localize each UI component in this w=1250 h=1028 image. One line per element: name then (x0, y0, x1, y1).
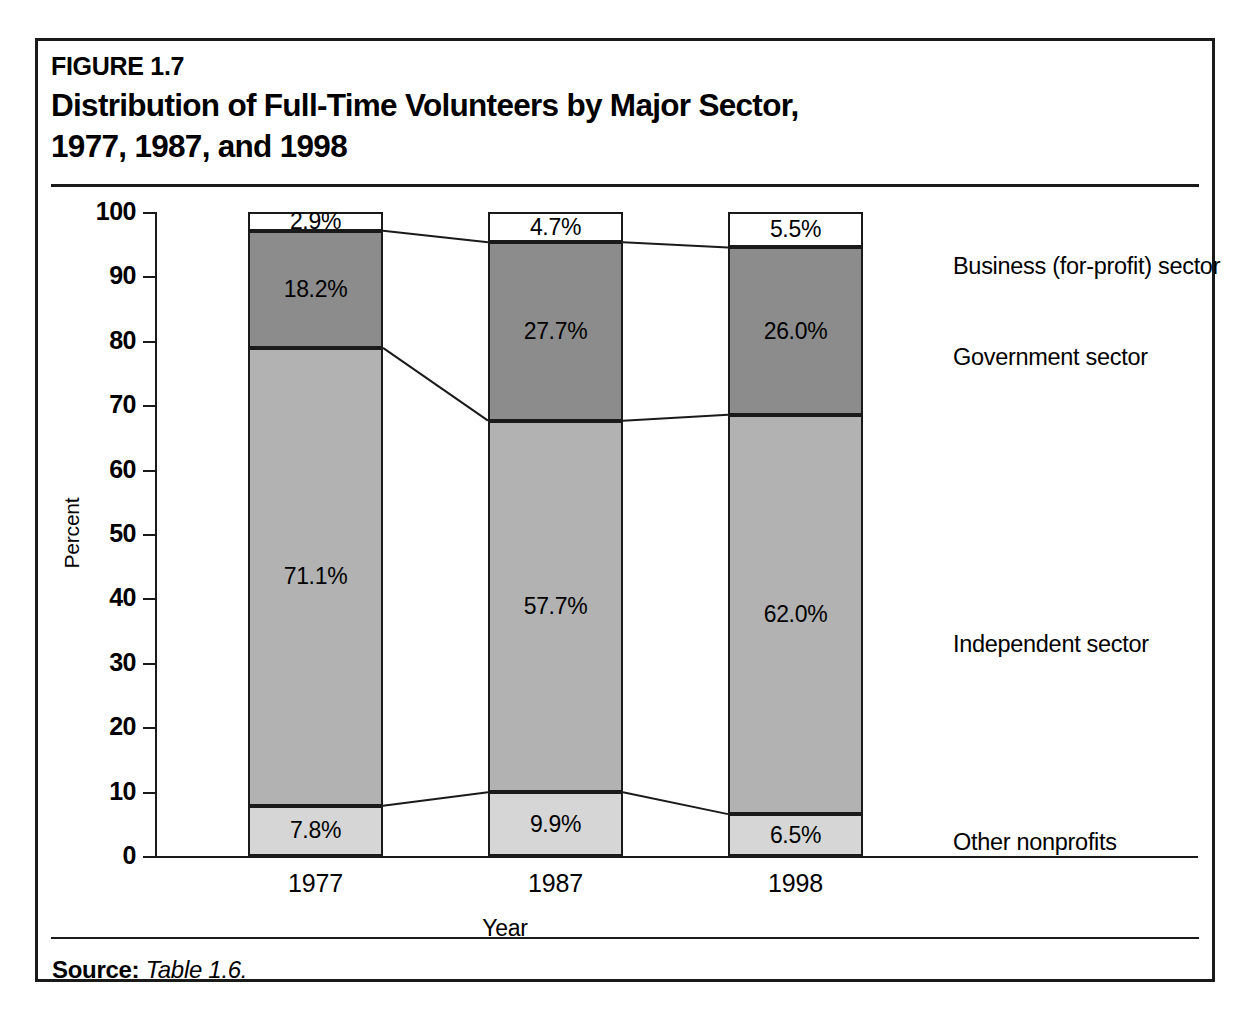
source-note: Source: Table 1.6. (52, 956, 247, 984)
legend-item-label: Other nonprofits (953, 831, 1117, 855)
stacked-bar[interactable]: 7.8%71.1%18.2%2.9% (248, 212, 383, 856)
y-tick-label: 40 (76, 585, 136, 610)
bar-segment[interactable]: 27.7% (488, 242, 623, 420)
y-tick-label-wrap: 60 (38, 457, 136, 483)
bar-segment-value-label: 62.0% (764, 603, 828, 626)
source-divider (51, 937, 1199, 939)
bar-segment[interactable]: 7.8% (248, 806, 383, 856)
bar-segment-value-label: 4.7% (530, 216, 581, 239)
bar-segment-value-label: 6.5% (770, 824, 821, 847)
bar-segment-value-label: 57.7% (524, 595, 588, 618)
y-tick-label: 50 (76, 521, 136, 546)
y-tick-label-wrap: 80 (38, 328, 136, 354)
bar-segment-value-label: 5.5% (770, 218, 821, 241)
bar-segment[interactable]: 71.1% (248, 348, 383, 806)
y-tick-label: 60 (76, 457, 136, 482)
y-tick-label-wrap: 10 (38, 779, 136, 805)
bar-segment[interactable]: 26.0% (728, 247, 863, 414)
y-tick-label-wrap: 100 (38, 199, 136, 225)
x-tick-label: 1987 (456, 869, 656, 898)
figure-frame: FIGURE 1.7 Distribution of Full-Time Vol… (35, 38, 1215, 982)
connector-line (383, 348, 488, 421)
y-tick-label: 100 (76, 199, 136, 224)
y-tick-label-wrap: 50 (38, 521, 136, 547)
x-axis-line (155, 856, 1198, 858)
y-tick-mark (143, 792, 156, 794)
stacked-bar[interactable]: 9.9%57.7%27.7%4.7% (488, 212, 623, 856)
y-tick-label: 10 (76, 779, 136, 804)
bar-segment[interactable]: 2.9% (248, 212, 383, 231)
bar-segment-value-label: 26.0% (764, 320, 828, 343)
connector-line (623, 242, 728, 247)
bar-segment[interactable]: 4.7% (488, 212, 623, 242)
y-tick-label-wrap: 40 (38, 585, 136, 611)
y-tick-mark (143, 341, 156, 343)
bar-segment-value-label: 9.9% (530, 813, 581, 836)
y-tick-mark (143, 727, 156, 729)
y-tick-mark (143, 405, 156, 407)
bar-segment[interactable]: 6.5% (728, 814, 863, 856)
source-label: Source: (52, 956, 139, 983)
y-tick-mark (143, 663, 156, 665)
y-tick-label: 30 (76, 650, 136, 675)
bar-segment[interactable]: 9.9% (488, 792, 623, 856)
x-tick-label: 1998 (696, 869, 896, 898)
legend-item-label: Government sector (953, 346, 1148, 370)
y-tick-label: 0 (76, 843, 136, 868)
y-tick-mark (143, 534, 156, 536)
x-tick-label: 1977 (216, 869, 416, 898)
y-tick-mark (143, 470, 156, 472)
bar-segment[interactable]: 57.7% (488, 421, 623, 793)
bar-segment[interactable]: 18.2% (248, 231, 383, 348)
y-tick-label-wrap: 70 (38, 392, 136, 418)
stacked-bar[interactable]: 6.5%62.0%26.0%5.5% (728, 212, 863, 856)
connector-line (623, 415, 728, 421)
y-tick-label: 20 (76, 714, 136, 739)
y-tick-label: 80 (76, 328, 136, 353)
connector-line (623, 792, 728, 814)
bar-segment-value-label: 18.2% (284, 278, 348, 301)
bar-segment-value-label: 27.7% (524, 320, 588, 343)
bar-segment[interactable]: 5.5% (728, 212, 863, 247)
y-tick-label-wrap: 30 (38, 650, 136, 676)
bar-segment-value-label: 71.1% (284, 565, 348, 588)
connector-line (383, 231, 488, 243)
y-tick-label-wrap: 20 (38, 714, 136, 740)
y-tick-label-wrap: 90 (38, 263, 136, 289)
bar-segment-value-label: 2.9% (290, 210, 341, 233)
y-tick-mark (143, 212, 156, 214)
bar-segment-value-label: 7.8% (290, 819, 341, 842)
y-tick-label: 70 (76, 392, 136, 417)
legend-item-label: Independent sector (953, 633, 1149, 657)
chart-plot-area: Percent 0102030405060708090100 7.8%71.1%… (38, 41, 1212, 979)
legend-item-label: Business (for-profit) sector (953, 255, 1220, 279)
source-value: Table 1.6. (146, 956, 248, 983)
y-tick-mark (143, 598, 156, 600)
connector-line (383, 792, 488, 806)
y-tick-mark (143, 856, 156, 858)
y-tick-label: 90 (76, 263, 136, 288)
y-tick-mark (143, 276, 156, 278)
y-tick-label-wrap: 0 (38, 843, 136, 869)
bar-segment[interactable]: 62.0% (728, 415, 863, 814)
